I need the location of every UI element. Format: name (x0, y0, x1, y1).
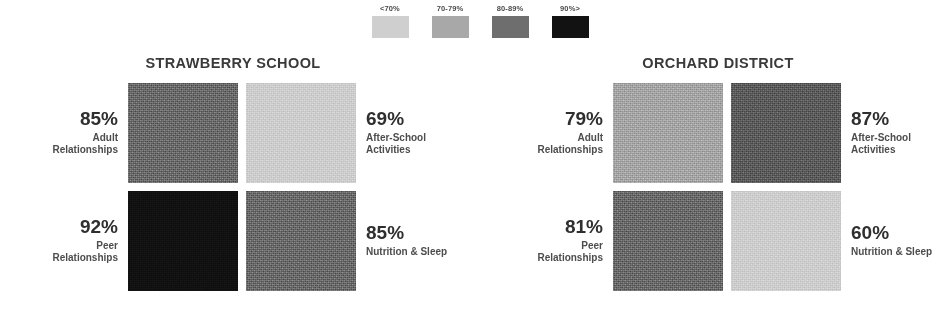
metric-name: Nutrition & Sleep (366, 246, 464, 259)
legend-swatch (432, 16, 469, 38)
metric-value: 69% (366, 109, 464, 129)
legend-label: 70-79% (437, 4, 463, 13)
legend-item: 90%> (548, 4, 592, 38)
heatmap-tile[interactable] (128, 191, 238, 291)
panel-body: 79% AdultRelationships 81% PeerRelations… (505, 83, 949, 291)
metric-name: PeerRelationships (20, 240, 118, 265)
metric-name: PeerRelationships (505, 240, 603, 265)
heatmap-tile[interactable] (128, 83, 238, 183)
panel-strawberry-school: STRAWBERRY SCHOOL 85% AdultRelationships… (20, 55, 464, 291)
legend-swatch (492, 16, 529, 38)
metric-label: 87% After-SchoolActivities (851, 83, 949, 183)
metric-label: 85% AdultRelationships (20, 83, 118, 183)
metric-name: AdultRelationships (505, 132, 603, 157)
panel-orchard-district: ORCHARD DISTRICT 79% AdultRelationships … (505, 55, 949, 291)
right-label-column: 87% After-SchoolActivities 60% Nutrition… (841, 83, 949, 291)
metric-value: 81% (505, 217, 603, 237)
heatmap-tile[interactable] (246, 83, 356, 183)
metric-name: After-SchoolActivities (366, 132, 464, 157)
metric-name: AdultRelationships (20, 132, 118, 157)
metric-name: After-SchoolActivities (851, 132, 949, 157)
heatmap-tile[interactable] (613, 191, 723, 291)
legend-item: 70-79% (428, 4, 472, 38)
metric-label: 85% Nutrition & Sleep (366, 191, 464, 291)
panel-title: STRAWBERRY SCHOOL (20, 55, 446, 71)
metric-label: 60% Nutrition & Sleep (851, 191, 949, 291)
heatmap-tile[interactable] (731, 191, 841, 291)
metric-value: 87% (851, 109, 949, 129)
metric-value: 92% (20, 217, 118, 237)
metric-value: 79% (505, 109, 603, 129)
left-label-column: 85% AdultRelationships 92% PeerRelations… (20, 83, 128, 291)
left-label-column: 79% AdultRelationships 81% PeerRelations… (505, 83, 613, 291)
metric-value: 85% (20, 109, 118, 129)
metric-label: 69% After-SchoolActivities (366, 83, 464, 183)
metric-label: 79% AdultRelationships (505, 83, 603, 183)
legend-item: 80-89% (488, 4, 532, 38)
metric-value: 60% (851, 223, 949, 243)
legend-item: <70% (368, 4, 412, 38)
legend-label: 80-89% (497, 4, 523, 13)
right-label-column: 69% After-SchoolActivities 85% Nutrition… (356, 83, 464, 291)
panel-title: ORCHARD DISTRICT (505, 55, 931, 71)
metric-label: 81% PeerRelationships (505, 191, 603, 291)
legend-label: 90%> (560, 4, 580, 13)
heatmap-tile[interactable] (731, 83, 841, 183)
heatmap-tile[interactable] (613, 83, 723, 183)
metric-label: 92% PeerRelationships (20, 191, 118, 291)
legend-swatch (372, 16, 409, 38)
metric-name: Nutrition & Sleep (851, 246, 949, 259)
heatmap-grid (128, 83, 356, 291)
panel-body: 85% AdultRelationships 92% PeerRelations… (20, 83, 464, 291)
metric-value: 85% (366, 223, 464, 243)
legend: <70% 70-79% 80-89% 90%> (368, 4, 592, 38)
legend-swatch (552, 16, 589, 38)
heatmap-grid (613, 83, 841, 291)
legend-label: <70% (380, 4, 400, 13)
heatmap-tile[interactable] (246, 191, 356, 291)
